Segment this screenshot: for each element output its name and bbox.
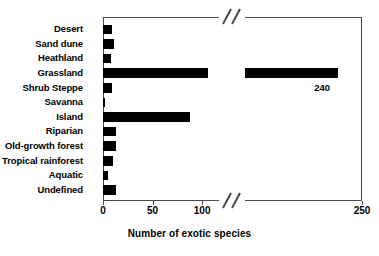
chart-row: Grassland xyxy=(0,66,362,81)
chart-row: Heathland xyxy=(0,51,362,66)
x-tick-label: 250 xyxy=(354,205,371,216)
bar xyxy=(103,127,116,137)
chart-row: Island xyxy=(0,110,362,125)
category-label: Aquatic xyxy=(0,170,83,180)
x-tick-label: 0 xyxy=(100,205,106,216)
bar xyxy=(103,54,111,64)
bar-segment xyxy=(245,68,338,78)
chart-row: Shrub Steppe xyxy=(0,80,362,95)
chart-row: Old-growth forest xyxy=(0,139,362,154)
bar xyxy=(103,185,116,195)
bar xyxy=(103,98,105,108)
category-label: Island xyxy=(0,112,83,122)
bar-value-label: 240 xyxy=(314,82,330,93)
category-label: Grassland xyxy=(0,68,83,78)
chart-row: Aquatic xyxy=(0,168,362,183)
category-label: Undefined xyxy=(0,185,83,195)
bar xyxy=(103,112,190,122)
category-label: Desert xyxy=(0,24,83,34)
x-tick-label: 100 xyxy=(194,205,211,216)
category-label: Sand dune xyxy=(0,39,83,49)
bar xyxy=(103,171,108,181)
category-label: Shrub Steppe xyxy=(0,83,83,93)
bar xyxy=(103,83,112,93)
bar-segment xyxy=(103,68,208,78)
exotic-species-bar-chart: DesertSand duneHeathlandGrasslandShrub S… xyxy=(0,0,379,256)
bar xyxy=(103,25,112,35)
chart-row: Desert xyxy=(0,22,362,37)
chart-row: Savanna xyxy=(0,95,362,110)
chart-row: Riparian xyxy=(0,124,362,139)
category-label: Savanna xyxy=(0,97,83,107)
bar xyxy=(103,39,114,49)
chart-rows: DesertSand duneHeathlandGrasslandShrub S… xyxy=(0,22,362,198)
x-axis-title: Number of exotic species xyxy=(0,228,379,239)
chart-row: Undefined xyxy=(0,183,362,198)
x-tick-label: 50 xyxy=(147,205,158,216)
x-axis-tick-labels: 050100250 xyxy=(0,205,379,219)
chart-row: Tropical rainforest xyxy=(0,153,362,168)
category-label: Old-growth forest xyxy=(0,141,83,151)
chart-row: Sand dune xyxy=(0,37,362,52)
bar xyxy=(103,156,113,166)
bar xyxy=(103,141,116,151)
category-label: Heathland xyxy=(0,53,83,63)
category-label: Tropical rainforest xyxy=(0,156,83,166)
category-label: Riparian xyxy=(0,126,83,136)
